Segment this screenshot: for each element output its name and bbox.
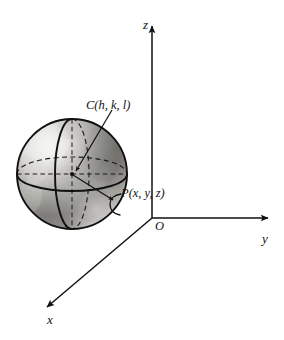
z-axis-label: z xyxy=(143,18,148,31)
sphere-center-label: C(h, k, l) xyxy=(86,99,130,112)
x-axis-line xyxy=(47,218,152,307)
sphere-group xyxy=(17,110,127,229)
y-axis-label: y xyxy=(262,232,268,245)
x-axis-label: x xyxy=(47,313,53,326)
figure-container: z y x O C(h, k, l) P(x, y, z) xyxy=(0,0,284,340)
origin-label: O xyxy=(155,220,164,233)
surface-point-label: P(x, y, z) xyxy=(121,187,165,200)
sphere-coordinate-diagram xyxy=(0,0,284,340)
center-point-marker xyxy=(70,172,74,176)
